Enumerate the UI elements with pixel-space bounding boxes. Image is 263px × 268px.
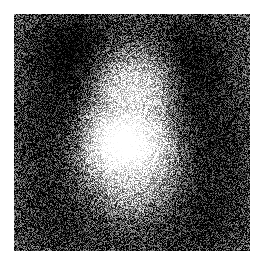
image-viewport [0, 0, 263, 268]
noisy-portrait-image [14, 14, 250, 251]
